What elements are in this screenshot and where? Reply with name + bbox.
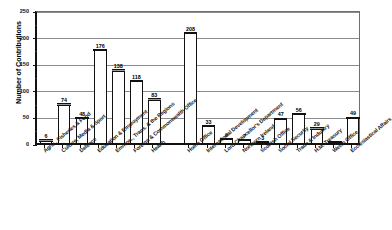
y-axis-tick-label: 150	[3, 61, 29, 67]
bars-group: 67448176138118832083397347562949	[37, 12, 359, 143]
bar-value-label: 49	[339, 110, 367, 116]
bar	[184, 32, 197, 143]
bar-value-label: 118	[122, 74, 150, 80]
y-axis-tick-label: 0	[3, 141, 29, 147]
y-axis-tick-label: 200	[3, 35, 29, 41]
bar-value-label: 74	[50, 97, 78, 103]
y-axis-tick-label: 250	[3, 8, 29, 14]
plot-area: 67448176138118832083397347562949	[35, 11, 360, 144]
bar-value-label: 208	[176, 26, 204, 32]
bar-value-label: 33	[195, 119, 223, 125]
clipped-title-strip	[0, 0, 370, 9]
bar-value-label: 83	[140, 92, 168, 98]
y-axis-tick-label: 100	[3, 88, 29, 94]
bar-value-label: 138	[104, 63, 132, 69]
bar-value-label: 56	[285, 107, 313, 113]
y-axis-tick-label: 50	[3, 114, 29, 120]
bar-value-label: 176	[86, 43, 114, 49]
